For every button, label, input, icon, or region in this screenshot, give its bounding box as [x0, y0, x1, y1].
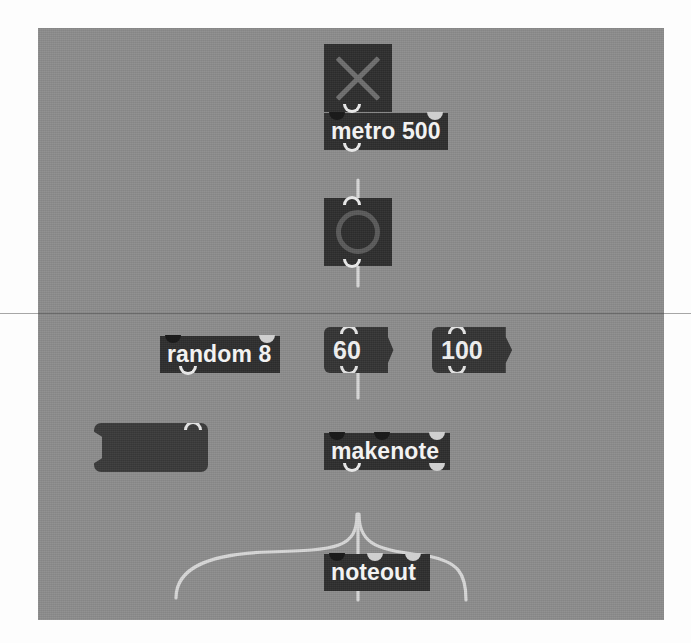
- message-box-empty[interactable]: [94, 423, 208, 472]
- number-box-pitch-value: 60: [333, 336, 361, 365]
- number-box-velocity[interactable]: 100: [432, 327, 522, 373]
- number-pitch-inlet-0[interactable]: [340, 325, 358, 334]
- makenote-outlet-1[interactable]: [429, 463, 445, 471]
- number-velocity-inlet-0[interactable]: [448, 325, 466, 334]
- object-metro[interactable]: metro 500: [324, 113, 448, 150]
- toggle-x-icon: [324, 44, 392, 112]
- toggle-object[interactable]: [324, 44, 392, 112]
- object-noteout-text: noteout: [331, 561, 416, 584]
- object-makenote[interactable]: makenote: [324, 433, 450, 470]
- number-box-pitch[interactable]: 60: [324, 327, 402, 373]
- number-pitch-outlet-0[interactable]: [340, 366, 358, 375]
- object-makenote-text: makenote: [331, 440, 439, 463]
- message-inlet-0[interactable]: [184, 421, 202, 430]
- metro-outlet-0[interactable]: [343, 143, 361, 152]
- makenote-outlet-0[interactable]: [343, 463, 361, 472]
- number-box-velocity-value: 100: [441, 336, 483, 365]
- bang-circle-icon: [336, 210, 380, 254]
- object-noteout[interactable]: noteout: [324, 554, 430, 591]
- bang-inlet-0[interactable]: [343, 196, 361, 205]
- bang-object[interactable]: [324, 198, 392, 266]
- object-random[interactable]: random 8: [160, 336, 280, 373]
- random-outlet-0[interactable]: [179, 366, 197, 375]
- object-metro-text: metro 500: [331, 120, 441, 143]
- toggle-outlet-0[interactable]: [343, 104, 361, 113]
- number-velocity-outlet-0[interactable]: [448, 366, 466, 375]
- object-random-text: random 8: [167, 343, 271, 366]
- patcher-canvas[interactable]: metro 500 random 8 60 100 makenote: [38, 28, 664, 620]
- bang-outlet-0[interactable]: [343, 259, 361, 268]
